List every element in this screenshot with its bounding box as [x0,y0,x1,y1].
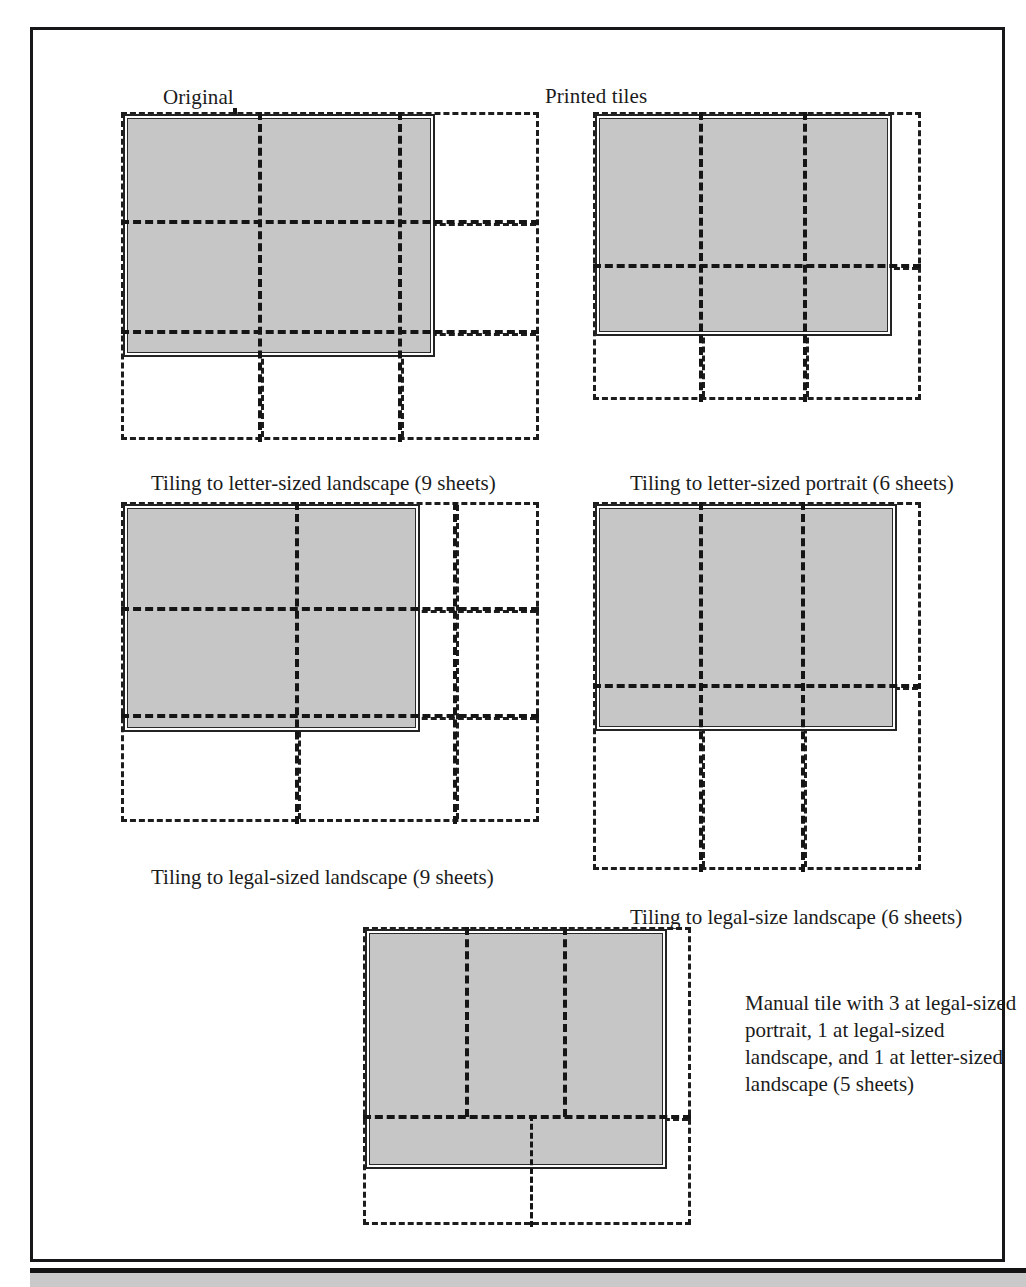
caption-manual-tile-5: Manual tile with 3 at legal-sized portra… [745,990,1026,1098]
diagram-legal-landscape-9 [121,502,541,824]
cut-line-vertical-2 [563,927,567,1117]
caption-letter-landscape-9: Tiling to letter-sized landscape (9 shee… [151,471,496,496]
original-document [123,114,435,357]
cut-line-horizontal-2 [121,714,539,718]
cut-line-horizontal-1 [121,607,539,611]
diagram-legal-landscape-6 [593,502,923,872]
cut-line-horizontal-1 [593,264,921,268]
original-document [595,114,892,336]
cut-line-vertical-1 [295,502,299,824]
cut-line-vertical-2 [453,502,457,824]
printed-tiles-label: Printed tiles [545,84,647,109]
caption-letter-portrait-6: Tiling to letter-sized portrait (6 sheet… [630,471,954,496]
cut-line-horizontal-1 [121,220,539,224]
diagram-letter-portrait-6 [593,112,923,402]
original-document [595,504,897,731]
diagram-manual-tile-5 [363,927,693,1227]
cut-line-vertical-1 [258,112,262,442]
figure-frame: Original Printed tiles Tiling to letter-… [30,27,1005,1262]
cut-line-vertical-1 [465,927,469,1117]
original-document-fill [369,933,663,1165]
cut-line-horizontal-2 [121,330,539,334]
original-document-fill [599,508,893,727]
cut-line-horizontal-1 [363,1115,691,1119]
cut-line-vertical-2 [803,112,807,402]
original-document-fill [599,118,888,332]
cut-line-vertical-1 [699,112,703,402]
diagram-letter-landscape-9 [121,112,541,442]
cut-line-vertical-2 [398,112,402,442]
original-label: Original [163,85,234,110]
original-document-fill [127,508,416,728]
figure-footer-band [30,1268,1026,1287]
caption-legal-landscape-9: Tiling to legal-sized landscape (9 sheet… [151,865,494,890]
cut-line-horizontal-1 [593,684,921,688]
original-document-fill [127,118,431,353]
original-document [123,504,420,732]
original-document [365,929,667,1169]
cut-line-vertical-3 [530,1115,533,1227]
